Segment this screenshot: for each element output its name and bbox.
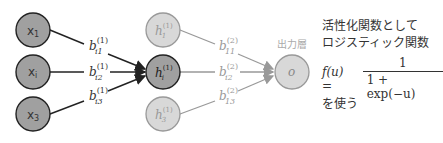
hidden-node-1: h(1)1	[146, 13, 180, 47]
formula-lhs: f(u) =	[322, 65, 357, 93]
output-node: o	[275, 55, 309, 89]
weight-label-b-i2-2: b(2)i2	[219, 62, 238, 82]
hidden-node-i: h(1)i	[146, 55, 180, 89]
formula-numerator: 1	[395, 56, 411, 71]
input-node-i: xi	[16, 55, 50, 89]
weight-label-b-i3-1: b(1)i3	[89, 86, 108, 106]
weight-label-b-i1-1: b(1)i1	[89, 36, 108, 56]
svg-text:o: o	[288, 65, 295, 79]
note-line-2: ロジスティック関数	[322, 35, 429, 52]
formula-denominator: 1 + exp(−u)	[363, 71, 443, 101]
input-node-1: x1	[16, 13, 50, 47]
activation-note: 活性化関数として ロジスティック関数	[322, 18, 429, 52]
weight-label-b-13-2: b(2)13	[219, 86, 238, 106]
output-layer-title: 出力層	[277, 38, 307, 50]
note-footer: を使う	[322, 94, 358, 111]
hidden-node-3: h(1)3	[146, 97, 180, 131]
formula-fraction: 1 1 + exp(−u)	[363, 56, 443, 101]
weight-label-b-11-2: b(2)11	[219, 36, 238, 56]
note-line-1: 活性化関数として	[322, 18, 429, 35]
weight-label-b-i2-1: b(1)i2	[89, 62, 108, 82]
input-node-3: x3	[16, 97, 50, 131]
